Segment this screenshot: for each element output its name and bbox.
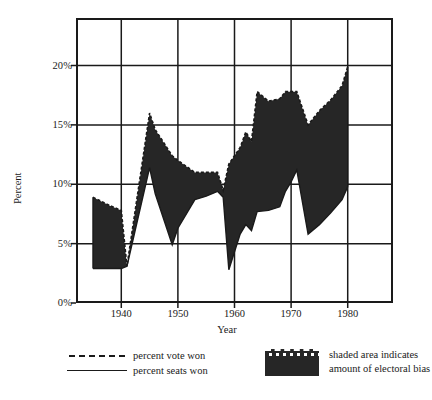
x-axis-tick-label: 1970 [269, 308, 313, 320]
x-axis-tick-label: 1980 [326, 308, 370, 320]
legend-item-vote-label: percent vote won [127, 349, 205, 362]
legend-shaded-line-2: amount of electoral bias [329, 363, 430, 374]
x-axis-tick-label: 1960 [213, 308, 257, 320]
chart-legend: percent vote won percent seats won shade… [0, 348, 432, 388]
y-axis-tick-label: 5% [36, 239, 72, 249]
x-axis-title: Year [0, 324, 432, 336]
chart-figure: 0%5%10%15%20% 19401950196019701980 Year … [0, 0, 432, 400]
legend-item-seats: percent seats won [67, 363, 247, 378]
legend-item-vote: percent vote won [67, 348, 247, 363]
electoral-bias-shaded-area [93, 67, 348, 270]
y-axis-tick-label: 15% [36, 120, 72, 130]
y-axis-title-text: Percent [12, 173, 24, 205]
y-axis-tick-label: 0% [36, 298, 72, 308]
shaded-swatch-icon [265, 349, 319, 374]
legend-series-column: percent vote won percent seats won [67, 348, 247, 378]
dashed-line-icon [67, 350, 127, 361]
y-axis-tick-label: 10% [36, 179, 72, 189]
legend-shaded-description: shaded area indicates amount of electora… [329, 348, 430, 375]
legend-shaded-line-1: shaded area indicates [329, 349, 418, 360]
x-axis-title-text: Year [195, 324, 236, 335]
x-axis-tick-label: 1940 [99, 308, 143, 320]
legend-item-seats-label: percent seats won [127, 364, 208, 377]
y-axis-tick-labels: 0%5%10%15%20% [28, 0, 72, 400]
x-axis-tick-label: 1950 [156, 308, 200, 320]
y-axis-title: Percent [10, 132, 24, 222]
solid-line-icon [67, 365, 127, 376]
y-axis-tick-label: 20% [36, 61, 72, 71]
